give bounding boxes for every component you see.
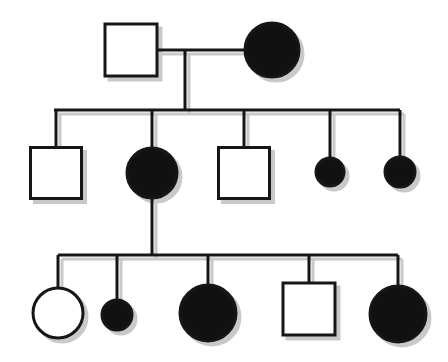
pedigree-chart (0, 0, 448, 362)
pedigree-symbol-III-5-female-affected (370, 286, 426, 342)
pedigree-symbol-II-3-male-unaffected (219, 148, 270, 199)
pedigree-symbol-I-1-male-unaffected (105, 24, 157, 76)
pedigree-symbol-II-1-male-unaffected (31, 148, 82, 199)
pedigree-symbol-I-2-female-affected (245, 23, 299, 77)
pedigree-symbol-II-2-female-affected (127, 148, 177, 198)
pedigree-symbol-II-4-female-affected (316, 158, 344, 186)
pedigree-symbol-III-1-female-unaffected (33, 288, 83, 338)
pedigree-symbol-III-2-female-affected (102, 300, 132, 330)
pedigree-symbol-III-4-male-unaffected (283, 283, 335, 335)
pedigree-svg (0, 0, 448, 362)
pedigree-symbol-II-5-female-affected (385, 157, 415, 187)
pedigree-symbol-III-3-female-affected (180, 285, 236, 341)
